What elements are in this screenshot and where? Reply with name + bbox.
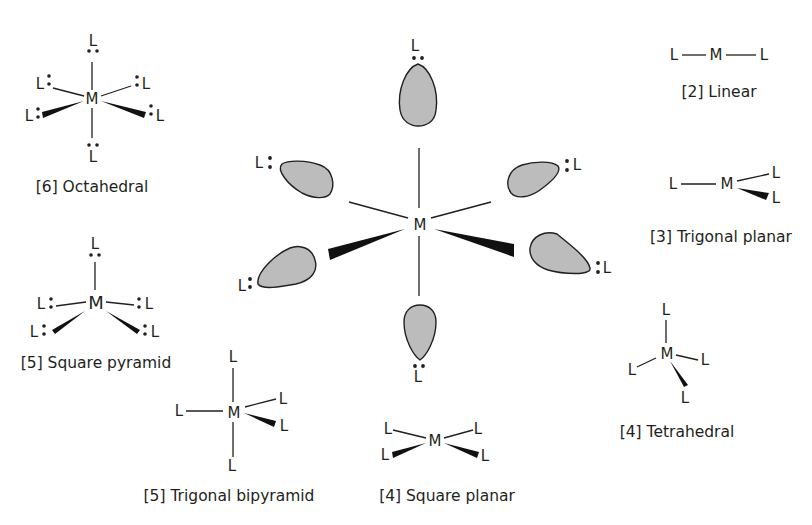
trigonal-bipyramid-caption: [5] Trigonal bipyramid	[144, 487, 315, 505]
octahedral-caption: [6] Octahedral	[36, 178, 149, 196]
ligand-label: L	[151, 323, 160, 341]
ligand-label: L	[25, 107, 34, 125]
tetrahedral-structure: L L L L M [4] Tetrahedral	[620, 301, 735, 441]
ligand-label: L	[37, 295, 46, 313]
ligand-label: L	[280, 417, 289, 435]
central-metal-label: M	[414, 216, 427, 234]
ligand-label: L	[384, 420, 393, 438]
ligand-label: L	[628, 361, 637, 379]
ligand-label: L	[89, 148, 98, 166]
ligand-label: L	[772, 164, 781, 182]
lone-pair-lobe-upper-right	[508, 162, 559, 197]
ligand-label: L	[255, 154, 264, 172]
ligand-label: L	[603, 259, 612, 277]
metal-label: M	[721, 175, 734, 193]
ligand-label: L	[91, 235, 100, 253]
ligand-label: L	[474, 420, 483, 438]
ligand-label: L	[662, 301, 671, 319]
trigonal-planar-caption: [3] Trigonal planar	[650, 228, 793, 246]
metal-label: M	[710, 46, 723, 64]
ligand-label: L	[238, 277, 247, 295]
central-orbital-diagram: L L L L L L M	[238, 37, 612, 386]
ligand-label: L	[36, 75, 45, 93]
lone-pair-lobe-bottom	[404, 305, 436, 360]
octahedral-structure: L L L L L L M [6] Octahedral	[25, 32, 165, 196]
square-pyramid-structure: L L L L L M [5] Square pyramid	[21, 235, 172, 372]
ligand-label: L	[760, 46, 769, 64]
metal-label: M	[228, 404, 241, 422]
lone-pair-lobe-lower-right	[530, 233, 590, 274]
linear-structure: L M L [2] Linear	[670, 46, 769, 101]
ligand-label: L	[145, 295, 154, 313]
metal-label: M	[88, 292, 104, 313]
ligand-label: L	[142, 75, 151, 93]
ligand-label: L	[481, 447, 490, 465]
ligand-label: L	[772, 189, 781, 207]
ligand-label: L	[670, 46, 679, 64]
ligand-label: L	[175, 402, 184, 420]
coordination-geometry-diagram: L L L L L L M [6] Octahedral L L L L L M…	[0, 0, 812, 525]
ligand-label: L	[156, 107, 165, 125]
lone-pair-lobe-upper-left	[280, 161, 332, 198]
ligand-label: L	[411, 37, 420, 55]
ligand-label: L	[381, 446, 390, 464]
lone-pair-lobe-lower-left	[258, 247, 316, 288]
ligand-label: L	[414, 368, 423, 386]
trigonal-planar-structure: L M L L [3] Trigonal planar	[650, 164, 793, 246]
tetrahedral-caption: [4] Tetrahedral	[620, 423, 735, 441]
ligand-label: L	[229, 348, 238, 366]
square-pyramid-caption: [5] Square pyramid	[21, 354, 172, 372]
metal-label: M	[429, 432, 442, 450]
ligand-label: L	[279, 390, 288, 408]
ligand-label: L	[228, 457, 237, 475]
ligand-label: L	[573, 156, 582, 174]
ligand-label: L	[89, 32, 98, 50]
lone-pair-lobe-top	[399, 64, 436, 126]
metal-label: M	[86, 90, 99, 108]
ligand-label: L	[669, 175, 678, 193]
metal-label: M	[661, 345, 674, 363]
ligand-label: L	[681, 389, 690, 407]
ligand-label: L	[30, 323, 39, 341]
square-planar-structure: L L L L M [4] Square planar	[379, 420, 515, 505]
linear-caption: [2] Linear	[681, 83, 757, 101]
square-planar-caption: [4] Square planar	[379, 487, 515, 505]
ligand-label: L	[701, 351, 710, 369]
